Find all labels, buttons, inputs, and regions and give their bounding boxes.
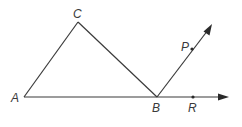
segment-ac [24, 22, 78, 97]
label-b: B [152, 101, 160, 115]
point-p [190, 47, 193, 50]
arrowhead-r-icon [218, 94, 229, 101]
label-p: P [181, 40, 189, 54]
segment-cb [78, 22, 157, 97]
label-r: R [188, 101, 197, 115]
label-c: C [73, 7, 82, 21]
point-r [191, 95, 194, 98]
geometry-diagram: A C B P R [0, 0, 242, 127]
label-a: A [10, 91, 19, 105]
